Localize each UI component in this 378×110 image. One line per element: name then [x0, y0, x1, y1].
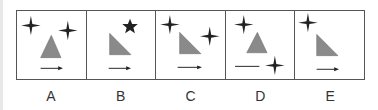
left-edge-shadow — [0, 0, 3, 110]
right-triangle-icon — [109, 33, 130, 54]
option-e-label[interactable]: E — [295, 88, 365, 104]
right-arrow-icon — [41, 66, 63, 70]
option-c-panel[interactable] — [156, 11, 226, 79]
four-point-star-icon — [265, 56, 284, 75]
right-arrow-icon — [178, 65, 202, 69]
isosceles-triangle-icon — [246, 32, 266, 52]
option-d-label[interactable]: D — [225, 88, 295, 104]
four-point-star-icon — [58, 21, 77, 40]
option-b-figure — [87, 11, 156, 79]
four-point-star-icon — [234, 15, 253, 34]
option-a-panel[interactable] — [17, 11, 87, 79]
option-d-figure — [226, 11, 295, 79]
option-b-panel[interactable] — [87, 11, 157, 79]
option-b-label[interactable]: B — [86, 88, 156, 104]
option-e-figure — [295, 11, 364, 79]
option-d-panel[interactable] — [226, 11, 296, 79]
right-triangle-icon — [180, 32, 201, 53]
right-triangle-icon — [317, 34, 338, 55]
right-arrow-icon — [317, 67, 339, 71]
five-point-star-icon — [122, 19, 138, 34]
options-strip — [16, 10, 365, 80]
option-e-panel[interactable] — [295, 11, 364, 79]
four-point-star-icon — [200, 27, 219, 46]
option-c-figure — [156, 11, 225, 79]
four-point-star-icon — [21, 16, 40, 35]
option-c-label[interactable]: C — [156, 88, 226, 104]
option-a-figure — [17, 11, 86, 79]
four-point-star-icon — [299, 13, 318, 32]
option-a-label[interactable]: A — [16, 88, 86, 104]
option-labels: A B C D E — [16, 88, 365, 104]
four-point-star-icon — [160, 15, 179, 34]
right-arrow-icon — [108, 66, 130, 70]
isosceles-triangle-icon — [41, 35, 61, 57]
